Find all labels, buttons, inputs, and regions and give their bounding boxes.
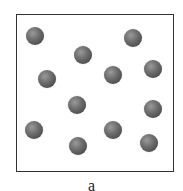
particle-sphere-icon	[69, 137, 87, 155]
figure-label: a	[0, 178, 183, 191]
particle-sphere-icon	[68, 96, 86, 114]
particle-sphere-icon	[144, 60, 162, 78]
particle-sphere-icon	[124, 29, 142, 47]
particle-sphere-icon	[38, 70, 56, 88]
particle-sphere-icon	[74, 46, 92, 64]
particle-sphere-icon	[104, 121, 122, 139]
particle-sphere-icon	[140, 134, 158, 152]
particle-sphere-icon	[144, 100, 162, 118]
particle-sphere-icon	[25, 121, 43, 139]
particle-sphere-icon	[104, 66, 122, 84]
particle-sphere-icon	[26, 27, 44, 45]
